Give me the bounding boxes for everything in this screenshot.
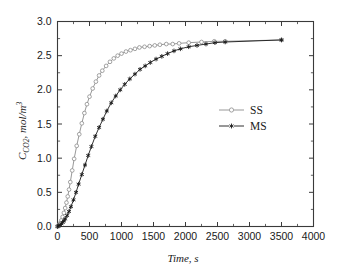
legend-label: SS xyxy=(250,104,263,116)
data-point xyxy=(70,169,74,173)
x-axis-title: Time, s xyxy=(167,252,198,264)
data-point xyxy=(129,48,133,52)
data-point xyxy=(112,57,116,61)
data-point xyxy=(153,44,157,48)
data-point xyxy=(77,132,81,136)
y-tick-label: 1.0 xyxy=(37,152,52,164)
data-point xyxy=(138,46,142,50)
x-tick-label: 4000 xyxy=(302,230,326,242)
x-tick-label: 3500 xyxy=(270,230,294,242)
data-point xyxy=(68,180,72,184)
x-tick-label: 0 xyxy=(55,230,61,242)
y-tick-label: 1.5 xyxy=(37,118,52,130)
y-tick-label: 2.5 xyxy=(37,49,52,61)
data-point xyxy=(80,121,84,125)
data-point xyxy=(85,102,89,106)
data-point xyxy=(148,44,152,48)
data-point xyxy=(133,47,137,51)
y-axis-title-sup: 3 xyxy=(15,101,24,106)
data-point xyxy=(91,87,95,91)
data-point xyxy=(158,43,162,47)
data-point xyxy=(164,42,168,46)
legend-label: MS xyxy=(250,120,267,132)
data-point xyxy=(116,54,120,58)
y-tick-label: 3.0 xyxy=(37,15,52,27)
data-point xyxy=(100,69,104,73)
data-point xyxy=(63,206,67,210)
data-point xyxy=(66,195,70,199)
y-tick-label: 0.5 xyxy=(37,186,52,198)
x-tick-label: 2500 xyxy=(206,230,230,242)
data-point xyxy=(104,64,108,68)
legend-marker xyxy=(229,108,233,112)
data-point xyxy=(65,201,69,205)
data-point xyxy=(200,40,204,44)
data-point xyxy=(177,42,181,46)
x-tick-label: 1500 xyxy=(142,230,166,242)
x-tick-label: 3000 xyxy=(238,230,262,242)
data-point xyxy=(124,50,128,54)
data-point xyxy=(75,144,79,148)
chart-figure: 05001000150020002500300035004000 0.00.51… xyxy=(0,0,353,274)
data-point xyxy=(94,80,98,84)
data-point xyxy=(171,42,175,46)
data-point xyxy=(62,211,66,215)
data-point xyxy=(143,45,147,49)
data-point xyxy=(88,95,92,99)
data-point xyxy=(97,74,101,78)
y-tick-label: 2.0 xyxy=(37,83,52,95)
data-point xyxy=(67,188,71,192)
y-axis-title-rest: , mol/m xyxy=(16,105,28,138)
data-point xyxy=(187,41,191,45)
data-point xyxy=(83,111,87,115)
x-axis-tick-labels: 05001000150020002500300035004000 xyxy=(55,230,326,242)
y-tick-label: 0.0 xyxy=(37,220,52,232)
x-tick-label: 1000 xyxy=(110,230,134,242)
y-axis-title-sub: CO2 xyxy=(22,138,31,152)
data-point xyxy=(108,60,112,64)
x-tick-label: 2000 xyxy=(174,230,198,242)
data-point xyxy=(72,157,76,161)
data-point xyxy=(120,52,124,56)
x-tick-label: 500 xyxy=(81,230,99,242)
